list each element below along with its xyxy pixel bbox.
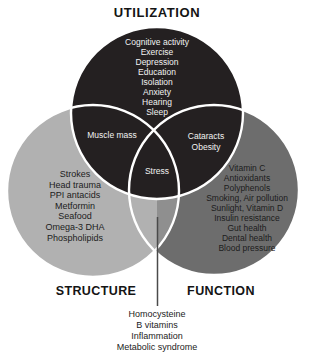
list-line: Stress <box>145 166 169 176</box>
utilization-structure-overlap-list: Muscle mass <box>87 130 137 140</box>
function-item-list: Vitamin CAntioxidantsPolyphenolsSmoking,… <box>206 163 288 253</box>
list-line: Metformin <box>45 201 104 212</box>
structure-function-overlap-list: HomocysteineB vitaminsInflammationMetabo… <box>117 309 198 353</box>
list-line: Insulin resistance <box>206 213 288 223</box>
list-line: Cognitive activity <box>125 37 189 47</box>
list-line: Obesity <box>188 142 224 153</box>
utilization-item-list: Cognitive activityExerciseDepressionEduc… <box>125 37 189 117</box>
venn-diagram: UTILIZATION Cognitive activityExerciseDe… <box>0 0 312 358</box>
list-line: Phospholipids <box>45 233 104 244</box>
list-line: B vitamins <box>117 320 198 331</box>
list-line: Sleep <box>125 107 189 117</box>
list-line: Gut health <box>206 223 288 233</box>
list-line: Education <box>125 67 189 77</box>
list-line: Cataracts <box>188 131 224 142</box>
list-line: PPI antacids <box>45 190 104 201</box>
list-line: Inflammation <box>117 331 198 342</box>
list-line: Polyphenols <box>206 183 288 193</box>
list-line: Smoking, Air pollution <box>206 193 288 203</box>
list-line: Omega-3 DHA <box>45 222 104 233</box>
structure-item-list: StrokesHead traumaPPI antacidsMetforminS… <box>45 169 104 243</box>
list-line: Muscle mass <box>87 130 137 140</box>
list-line: Exercise <box>125 47 189 57</box>
all-three-overlap-list: Stress <box>145 166 169 176</box>
list-line: Strokes <box>45 169 104 180</box>
list-line: Hearing <box>125 97 189 107</box>
list-line: Sunlight, Vitamin D <box>206 203 288 213</box>
list-line: Antioxidants <box>206 173 288 183</box>
utilization-function-overlap-list: CataractsObesity <box>188 131 224 152</box>
function-title: FUNCTION <box>187 284 255 298</box>
list-line: Head trauma <box>45 180 104 191</box>
list-line: Blood pressure <box>206 243 288 253</box>
list-line: Anxiety <box>125 87 189 97</box>
structure-title: STRUCTURE <box>56 284 137 298</box>
list-line: Vitamin C <box>206 163 288 173</box>
list-line: Isolation <box>125 77 189 87</box>
list-line: Seafood <box>45 211 104 222</box>
list-line: Depression <box>125 57 189 67</box>
list-line: Homocysteine <box>117 309 198 320</box>
list-line: Metabolic syndrome <box>117 342 198 353</box>
utilization-title: UTILIZATION <box>114 5 201 20</box>
list-line: Dental health <box>206 233 288 243</box>
